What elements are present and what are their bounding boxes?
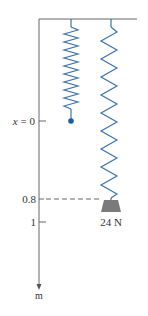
stretched-spring (101, 19, 117, 200)
unstretched-spring (64, 19, 78, 119)
weight-label: 24 N (100, 216, 122, 228)
tick-label-0-8: 0.8 (22, 193, 36, 205)
tick-label-1: 1 (31, 216, 37, 228)
axis-unit-label: m (35, 290, 43, 301)
zero-label: x= 0 (12, 115, 36, 127)
spring-diagram: x= 0 0.8 1 24 N m (0, 0, 148, 316)
spring-end-dot (68, 118, 74, 124)
weight-block (101, 200, 121, 212)
